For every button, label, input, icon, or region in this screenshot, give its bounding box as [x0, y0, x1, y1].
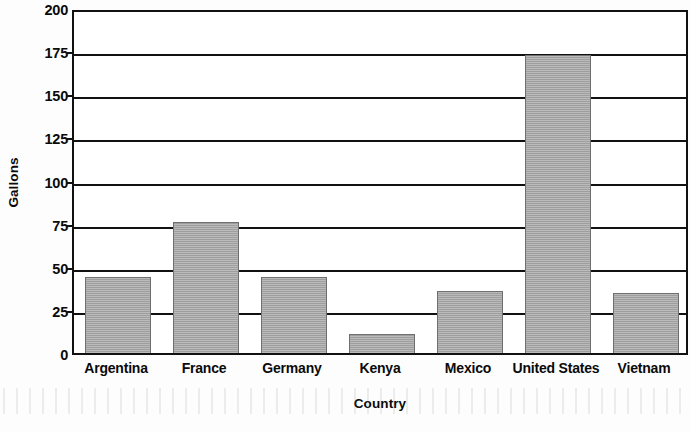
x-tick-label: Vietnam — [600, 360, 688, 376]
y-tick-label: 75 — [26, 218, 68, 233]
y-axis-title: Gallons — [0, 0, 26, 365]
x-tick-label: Kenya — [336, 360, 424, 376]
y-axis-tick-labels: 0255075100125150175200 — [26, 0, 68, 366]
x-axis-tick-labels: ArgentinaFranceGermanyKenyaMexicoUnited … — [72, 360, 688, 384]
bar — [525, 55, 591, 353]
bar — [349, 334, 415, 353]
y-axis-title-label: Gallons — [6, 157, 21, 207]
bar — [85, 277, 151, 353]
bar — [261, 277, 327, 353]
y-tick-label: 125 — [26, 132, 68, 147]
bar — [437, 291, 503, 353]
bar-chart: Gallons 0255075100125150175200 Argentina… — [0, 0, 690, 432]
y-tick-label: 0 — [26, 348, 68, 363]
x-tick-label: France — [160, 360, 248, 376]
y-tick-label: 25 — [26, 305, 68, 320]
x-axis-title: Country — [72, 396, 688, 411]
x-tick-label: Germany — [248, 360, 336, 376]
y-tick-label: 50 — [26, 262, 68, 277]
plot-area — [72, 10, 688, 355]
bar — [173, 222, 239, 353]
y-tick-label: 100 — [26, 175, 68, 190]
y-tick-label: 175 — [26, 46, 68, 61]
x-tick-label: United States — [512, 360, 600, 376]
y-tick-label: 200 — [26, 3, 68, 18]
y-tick-label: 150 — [26, 89, 68, 104]
x-tick-label: Mexico — [424, 360, 512, 376]
bar — [613, 293, 679, 353]
x-tick-label: Argentina — [72, 360, 160, 376]
bars-layer — [74, 12, 686, 353]
